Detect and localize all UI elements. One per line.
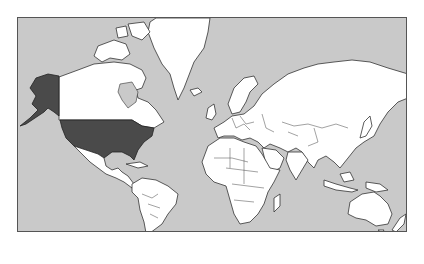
south-america [132, 178, 178, 232]
madagascar [274, 194, 280, 212]
world-map-svg [18, 18, 407, 232]
tasmania [378, 230, 384, 232]
india [286, 152, 308, 180]
world-map: World map [17, 17, 407, 232]
arctic-islands [116, 26, 128, 38]
new-zealand [392, 214, 406, 232]
indonesia [324, 180, 358, 192]
australia [348, 192, 392, 226]
borneo [340, 172, 354, 182]
alaska [20, 74, 59, 126]
greenland [148, 18, 210, 100]
canada [59, 62, 164, 128]
usa-contiguous [60, 120, 154, 160]
new-guinea [366, 182, 388, 192]
arctic-islands [128, 22, 150, 40]
arctic-islands [94, 40, 130, 62]
caribbean-islands [126, 162, 148, 168]
iceland [190, 88, 202, 96]
uk-ireland [206, 104, 216, 120]
